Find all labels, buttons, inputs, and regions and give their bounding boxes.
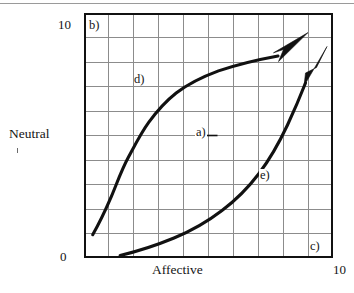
y-axis-min-label: 0: [60, 250, 67, 263]
x-axis-title: Affective: [152, 262, 203, 277]
annotation-d: d): [134, 73, 144, 86]
scan-speck-artifact: [17, 148, 18, 153]
annotation-b: b): [89, 19, 99, 32]
annotation-c: c): [310, 240, 320, 253]
curve-layer: [84, 13, 333, 258]
curve-e: [120, 47, 327, 256]
annotation-e: e): [259, 169, 271, 182]
figure-canvas: 10 0 10 Neutral Affective: [0, 0, 354, 293]
plot-area: b) d) a) e) c): [84, 13, 333, 258]
y-axis-max-label: 10: [58, 18, 71, 31]
y-axis-title: Neutral: [9, 126, 49, 141]
x-axis-max-label: 10: [333, 263, 346, 276]
page-top-rule: [0, 3, 354, 4]
annotation-a: a): [195, 126, 207, 139]
